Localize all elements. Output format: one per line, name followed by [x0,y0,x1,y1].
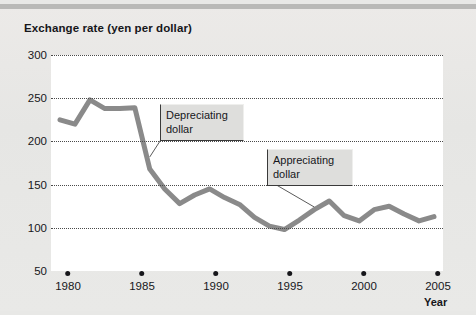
x-tick-label-2005: 2005 [425,280,451,292]
x-tick-1995: 1995 [277,271,303,292]
y-tick-label-150: 150 [7,179,47,191]
plot-area [51,55,443,271]
top-edge-shadow [0,4,476,9]
gridline-250 [51,98,443,99]
exchange-rate-line-series [51,55,443,271]
x-tick-1990: 1990 [203,271,229,292]
gridline-200 [51,141,443,142]
gridline-100 [51,228,443,229]
x-tick-label-1985: 1985 [129,280,155,292]
x-tick-dot-1990 [214,271,219,276]
y-tick-label-50: 50 [7,265,47,277]
x-tick-dot-1985 [140,271,145,276]
x-axis-title: Year [424,296,447,308]
x-tick-label-2000: 2000 [351,280,377,292]
x-tick-dot-1980 [66,271,71,276]
annotation-appreciating-dollar: Appreciating dollar [267,149,353,186]
x-tick-1980: 1980 [55,271,81,292]
x-tick-label-1980: 1980 [55,280,81,292]
x-tick-1985: 1985 [129,271,155,292]
annotation-depreciating-dollar: Depreciating dollar [160,104,244,141]
y-tick-label-100: 100 [7,222,47,234]
x-tick-label-1990: 1990 [203,280,229,292]
figure-panel: Exchange rate (yen per dollar) 300 250 2… [0,4,476,311]
x-axis: 1980 1985 1990 1995 2000 2005 [51,271,443,301]
x-tick-2005: 2005 [425,271,451,292]
gridline-150 [51,185,443,186]
x-tick-dot-2005 [436,271,441,276]
y-tick-label-300: 300 [7,49,47,61]
gridline-300 [51,55,443,56]
y-axis: 300 250 200 150 100 50 [3,55,47,271]
y-tick-label-200: 200 [7,135,47,147]
x-tick-2000: 2000 [351,271,377,292]
y-tick-label-250: 250 [7,92,47,104]
x-tick-label-1995: 1995 [277,280,303,292]
x-tick-dot-1995 [288,271,293,276]
x-tick-dot-2000 [362,271,367,276]
chart-title: Exchange rate (yen per dollar) [24,22,192,34]
